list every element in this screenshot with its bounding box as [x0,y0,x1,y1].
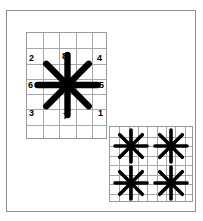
gridline-horizontal [27,48,106,49]
gridline-vertical [138,127,139,201]
gridline-vertical [166,127,167,201]
spoke-label-north-east: 4 [97,54,102,63]
tiled-panel-gridlines [110,127,192,201]
gridline-horizontal [110,194,192,195]
spoke-label-north-west: 2 [29,54,34,63]
gridline-horizontal [110,184,192,185]
gridline-vertical [129,127,130,201]
gridline-horizontal [110,175,192,176]
spoke-label-south-east: 1 [98,109,103,118]
gridline-horizontal [110,156,192,157]
spoke-label-north: 8 [62,52,67,61]
gridline-vertical [185,127,186,201]
main-star-panel: 28465371 [26,32,107,139]
gridline-horizontal [110,137,192,138]
gridline-vertical [119,127,120,201]
gridline-vertical [147,127,148,201]
gridline-horizontal [27,125,106,126]
main-panel-gridlines [27,33,106,138]
gridline-horizontal [110,146,192,147]
gridline-horizontal [27,94,106,95]
figure-root: 28465371 [0,0,203,221]
spoke-label-west: 6 [28,81,33,90]
gridline-horizontal [27,109,106,110]
gridline-horizontal [110,165,192,166]
spoke-label-south: 7 [63,112,68,121]
gridline-vertical [175,127,176,201]
figure-outer-frame: 28465371 [6,10,196,212]
gridline-horizontal [27,64,106,65]
spoke-label-south-west: 3 [29,109,34,118]
spoke-label-east: 5 [99,81,104,90]
gridline-vertical [157,127,158,201]
tiled-star-panel [109,126,193,202]
gridline-horizontal [27,79,106,80]
